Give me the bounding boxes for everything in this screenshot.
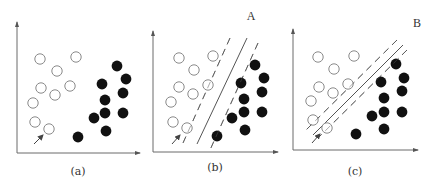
hollow-point (35, 54, 45, 64)
filled-point (257, 107, 268, 118)
filled-point (101, 126, 112, 137)
filled-point (250, 60, 261, 71)
hollow-point (50, 90, 60, 100)
pointer-arrow-icon (172, 135, 180, 144)
svm-figure: (a) (b) (c) A B (0, 0, 435, 186)
filled-point (100, 95, 111, 106)
hollow-point (188, 89, 198, 99)
filled-point (379, 124, 390, 135)
filled-point (257, 87, 268, 98)
filled-point (379, 93, 390, 104)
filled-point (118, 88, 129, 99)
filled-point (89, 113, 100, 124)
caption-c: (c) (348, 165, 363, 178)
panel-a (17, 22, 140, 153)
separating-hyperplane (197, 38, 247, 144)
hollow-point (208, 51, 218, 61)
hollow-point (328, 88, 338, 98)
filled-point (397, 107, 408, 118)
hollow-point (166, 97, 176, 107)
hollow-point (44, 124, 54, 134)
caption-b: (b) (207, 161, 223, 174)
filled-point (212, 131, 223, 142)
filled-point (399, 73, 410, 84)
hollow-point (329, 64, 339, 74)
filled-point (240, 125, 251, 136)
panel-b (153, 31, 278, 152)
hollow-point (306, 96, 316, 106)
filled-point (236, 78, 247, 89)
pointer-arrow-icon (34, 135, 43, 144)
hollow-point (52, 66, 62, 76)
filled-point (259, 73, 270, 84)
hollow-point (203, 80, 213, 90)
hollow-point (313, 52, 323, 62)
filled-point (379, 107, 390, 118)
hollow-point (308, 115, 318, 125)
hollow-point (71, 52, 81, 62)
hollow-point (174, 53, 184, 63)
filled-point (239, 107, 250, 118)
hollow-point (65, 81, 75, 91)
filled-point (367, 111, 378, 122)
hollow-point (189, 65, 199, 75)
filled-point (73, 132, 84, 143)
hollow-point (343, 79, 353, 89)
corner-label-a: A (247, 9, 256, 24)
filled-point (239, 94, 250, 105)
hollow-point (168, 117, 178, 127)
filled-point (376, 77, 387, 88)
hollow-point (349, 51, 359, 61)
hollow-point (36, 83, 46, 93)
diagram-canvas (0, 0, 435, 186)
filled-point (121, 74, 132, 85)
corner-label-b: B (413, 16, 421, 31)
pointer-arrow-icon (312, 134, 320, 143)
hollow-point (314, 82, 324, 92)
hollow-point (28, 98, 38, 108)
filled-point (391, 59, 402, 70)
filled-point (227, 113, 238, 124)
filled-point (100, 108, 111, 119)
hollow-point (182, 123, 192, 133)
filled-point (112, 61, 123, 72)
hollow-point (322, 123, 332, 133)
caption-a: (a) (70, 165, 85, 178)
filled-point (397, 86, 408, 97)
panel-c (293, 29, 418, 150)
filled-point (97, 79, 108, 90)
hollow-point (30, 117, 40, 127)
filled-point (351, 129, 362, 140)
filled-point (118, 108, 129, 119)
hollow-point (174, 82, 184, 92)
